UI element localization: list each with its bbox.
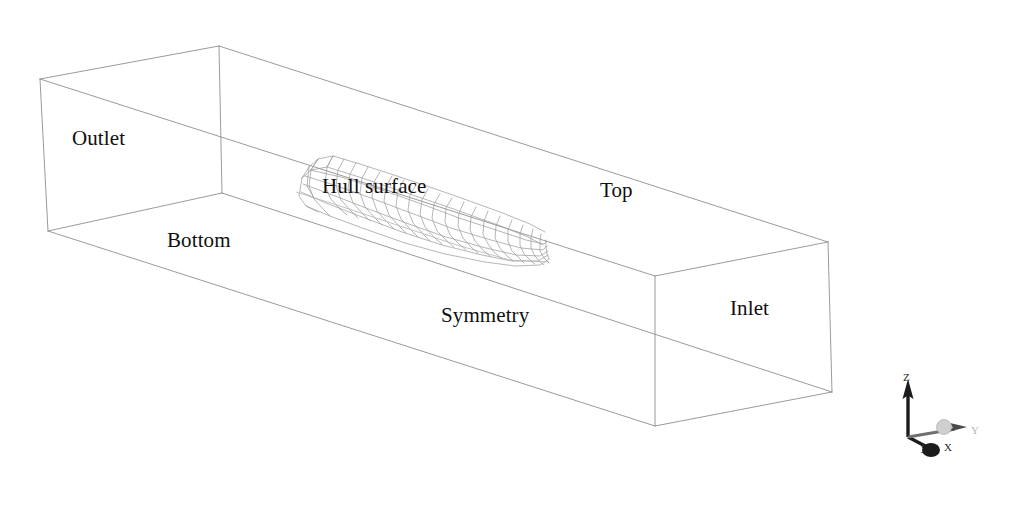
origin-sphere-icon bbox=[937, 420, 952, 435]
boundary-label-outlet: Outlet bbox=[72, 128, 125, 149]
x-axis-label: X bbox=[944, 442, 952, 453]
domain-box-wireframe bbox=[40, 46, 832, 426]
boundary-label-inlet: Inlet bbox=[730, 298, 769, 319]
bottom-face-edges bbox=[48, 193, 832, 426]
boundary-label-top: Top bbox=[600, 180, 633, 201]
boundary-label-bottom: Bottom bbox=[167, 230, 231, 251]
z-axis-arrow bbox=[903, 379, 914, 437]
cfd-domain-figure: Outlet Bottom Hull surface Top Symmetry … bbox=[0, 0, 1026, 506]
z-axis-label: Z bbox=[903, 372, 910, 383]
hull-surface-mesh bbox=[296, 156, 549, 266]
domain-wireframe-canvas bbox=[0, 0, 1026, 506]
inlet-face-edges bbox=[655, 242, 832, 426]
coordinate-axes-triad bbox=[903, 379, 968, 457]
hull-keel-line bbox=[306, 206, 549, 266]
boundary-label-symmetry: Symmetry bbox=[441, 305, 529, 326]
x-axis-arrow bbox=[908, 437, 940, 457]
y-axis-label: Y bbox=[971, 425, 979, 436]
outlet-face-edges bbox=[40, 46, 222, 231]
top-face-edges bbox=[40, 46, 828, 276]
boundary-label-hull-surface: Hull surface bbox=[322, 176, 426, 197]
